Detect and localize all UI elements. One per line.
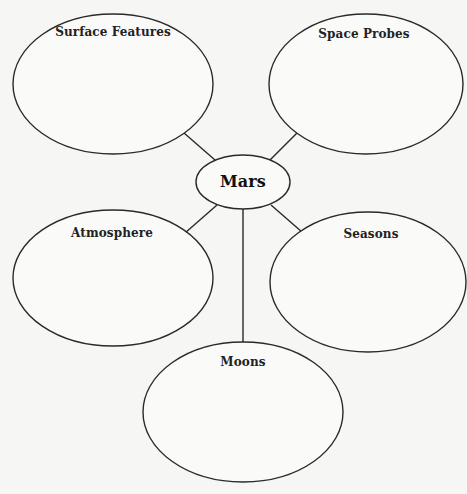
label-space-probes: Space Probes [318,27,409,41]
connector-space-probes [270,133,297,160]
label-seasons: Seasons [343,227,398,241]
label-surface-features: Surface Features [55,25,171,39]
label-atmosphere: Atmosphere [71,226,153,240]
connector-atmosphere [185,205,217,233]
label-moons: Moons [220,355,265,369]
diagram-canvas [0,0,467,494]
mars-concept-web: Surface Features Space Probes Mars Atmos… [0,0,467,494]
label-mars: Mars [220,172,266,191]
connector-seasons [271,205,302,232]
connector-surface-features [184,133,215,160]
